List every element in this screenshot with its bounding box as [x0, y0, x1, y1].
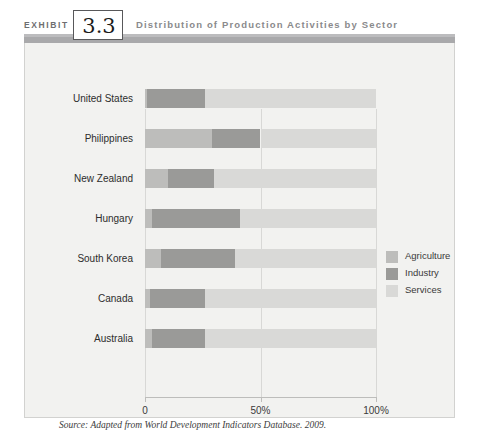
- bar-row: [145, 249, 376, 268]
- exhibit-label: EXHIBIT: [24, 20, 69, 30]
- gridline-100: [376, 109, 377, 397]
- bar-segment-industry: [161, 249, 235, 268]
- x-tick-0: [145, 397, 146, 402]
- legend-item: Agriculture: [386, 249, 476, 266]
- chart-panel: 050%100% United StatesPhilippinesNew Zea…: [24, 40, 455, 418]
- x-tick-label-0: 0: [142, 405, 148, 416]
- legend-item: Services: [386, 283, 476, 300]
- x-tick-50: [261, 397, 262, 402]
- bar-segment-services: [205, 89, 376, 108]
- bar-segment-industry: [152, 329, 205, 348]
- legend-item: Industry: [386, 266, 476, 283]
- exhibit-figure: EXHIBIT 3.3 Distribution of Production A…: [0, 0, 479, 433]
- bar-segment-agriculture: [145, 329, 152, 348]
- bar-segment-services: [214, 169, 376, 188]
- x-tick-label-100: 100%: [363, 405, 389, 416]
- category-label: Hungary: [25, 213, 133, 224]
- bar-segment-industry: [150, 289, 205, 308]
- source-note: Source: Adapted from World Development I…: [59, 419, 471, 433]
- legend-label: Industry: [405, 267, 439, 278]
- category-label: South Korea: [25, 253, 133, 264]
- category-label: Philippines: [25, 133, 133, 144]
- legend-label: Agriculture: [405, 250, 450, 261]
- legend-swatch-icon: [386, 251, 398, 263]
- bar-segment-services: [240, 209, 376, 228]
- bar-segment-services: [205, 329, 376, 348]
- category-label: United States: [25, 93, 133, 104]
- bar-segment-services: [205, 289, 376, 308]
- bar-row: [145, 169, 376, 188]
- bar-row: [145, 129, 376, 148]
- bar-segment-agriculture: [145, 169, 168, 188]
- exhibit-number-box: 3.3: [73, 10, 123, 40]
- bar-segment-industry: [212, 129, 261, 148]
- bar-row: [145, 289, 376, 308]
- category-label: Canada: [25, 293, 133, 304]
- bar-segment-industry: [168, 169, 214, 188]
- bar-segment-industry: [147, 89, 205, 108]
- bar-segment-agriculture: [145, 129, 212, 148]
- exhibit-header: EXHIBIT 3.3 Distribution of Production A…: [0, 6, 479, 42]
- bar-row: [145, 209, 376, 228]
- bar-segment-agriculture: [145, 249, 161, 268]
- legend-label: Services: [405, 284, 441, 295]
- legend-swatch-icon: [386, 268, 398, 280]
- bar-segment-services: [235, 249, 376, 268]
- x-tick-100: [376, 397, 377, 402]
- bar-segment-industry: [152, 209, 240, 228]
- bar-row: [145, 89, 376, 108]
- bar-row: [145, 329, 376, 348]
- category-label: New Zealand: [25, 173, 133, 184]
- chart-legend: AgricultureIndustryServices: [386, 249, 476, 300]
- bar-segment-services: [261, 129, 377, 148]
- x-tick-label-50: 50%: [250, 405, 270, 416]
- exhibit-number: 3.3: [74, 11, 124, 41]
- bar-segment-agriculture: [145, 209, 152, 228]
- legend-swatch-icon: [386, 285, 398, 297]
- category-label: Australia: [25, 333, 133, 344]
- exhibit-title: Distribution of Production Activities by…: [136, 19, 398, 30]
